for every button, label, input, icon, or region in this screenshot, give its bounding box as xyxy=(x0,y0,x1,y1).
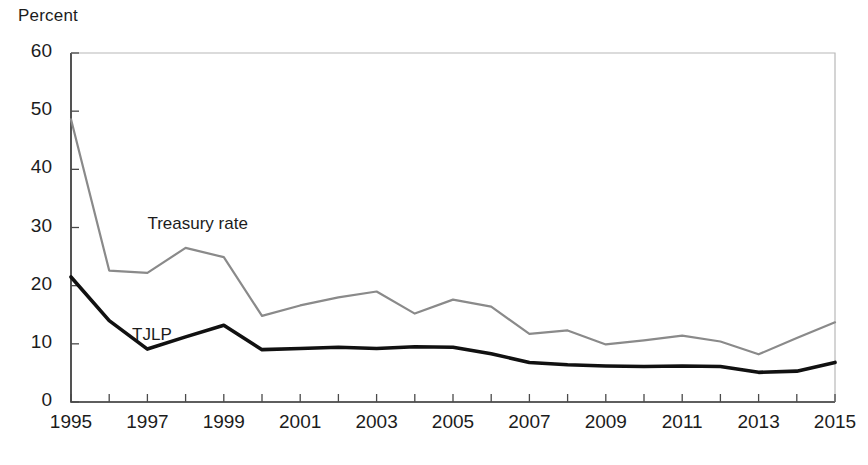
y-tick-label: 60 xyxy=(6,40,52,62)
y-axis-ticks xyxy=(71,53,79,402)
x-tick-label: 2003 xyxy=(342,411,412,433)
x-tick-label: 2013 xyxy=(724,411,794,433)
x-tick-label: 2009 xyxy=(571,411,641,433)
series-lines xyxy=(71,119,835,372)
x-tick-label: 2011 xyxy=(647,411,717,433)
x-tick-label: 1999 xyxy=(189,411,259,433)
x-axis-ticks xyxy=(71,394,835,402)
x-tick-label: 1997 xyxy=(112,411,182,433)
y-tick-label: 0 xyxy=(6,389,52,411)
figure-container: Percent 0102030405060 199519971999200120… xyxy=(0,0,868,465)
x-tick-label: 2007 xyxy=(494,411,564,433)
line-chart-plot xyxy=(0,0,868,465)
series-label-treasury-rate: Treasury rate xyxy=(147,214,247,234)
y-tick-label: 20 xyxy=(6,273,52,295)
x-tick-label: 1995 xyxy=(36,411,106,433)
y-tick-label: 50 xyxy=(6,98,52,120)
x-tick-label: 2001 xyxy=(265,411,335,433)
series-label-tjlp: TJLP xyxy=(132,325,172,345)
y-tick-label: 10 xyxy=(6,331,52,353)
x-tick-label: 2005 xyxy=(418,411,488,433)
y-tick-label: 30 xyxy=(6,215,52,237)
y-tick-label: 40 xyxy=(6,156,52,178)
x-tick-label: 2015 xyxy=(800,411,868,433)
